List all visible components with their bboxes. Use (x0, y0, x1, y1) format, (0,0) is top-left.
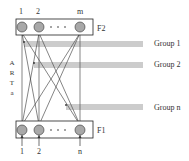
f1-node-1-label: 1 (20, 148, 24, 156)
f1-node-n-label: n (78, 148, 82, 156)
group-n-bus (66, 105, 143, 109)
side-letter: R (9, 68, 15, 78)
f1-node-n (75, 125, 85, 135)
f2-node-2 (34, 22, 44, 32)
connection-lines (22, 33, 80, 125)
side-letter: A (9, 58, 15, 68)
f2-node-1-label: 1 (19, 8, 23, 16)
f1-node-1 (17, 125, 27, 135)
group-1-bus (24, 42, 143, 46)
side-letter: a (9, 88, 15, 98)
group-n-label: Group n (154, 104, 180, 112)
f1-layer-label: F1 (97, 127, 105, 135)
network-diagram (0, 0, 189, 161)
f2-layer-label: F2 (97, 25, 105, 33)
f2-node-1 (17, 22, 27, 32)
group-buses (24, 42, 143, 109)
group-1-label: Group 1 (154, 40, 180, 48)
f1-node-2-label: 2 (37, 148, 41, 156)
f2-node-2-label: 2 (36, 8, 40, 16)
group-2-label: Group 2 (154, 61, 180, 69)
f2-node-m (75, 22, 85, 32)
f1-node-2 (34, 125, 44, 135)
group-2-bus (34, 63, 143, 67)
f2-node-m-label: m (77, 8, 83, 16)
side-letter: T (9, 78, 15, 88)
side-label-arta: A R T a (9, 58, 15, 98)
